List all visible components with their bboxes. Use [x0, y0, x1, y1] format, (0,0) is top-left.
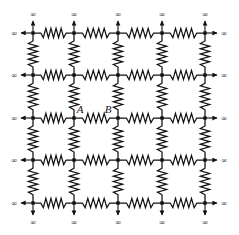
resistor-vertical	[200, 160, 209, 203]
resistor-horizontal	[33, 70, 74, 79]
resistor-vertical	[69, 118, 78, 160]
resistor-vertical	[200, 33, 209, 75]
lattice-node	[116, 73, 119, 76]
infinity-symbol: ∞	[30, 10, 36, 19]
resistor-horizontal	[33, 198, 74, 207]
resistor-horizontal	[118, 198, 162, 207]
infinity-symbol: ∞	[202, 218, 208, 227]
resistor-vertical	[28, 33, 37, 75]
infinity-symbol: ∞	[202, 10, 208, 19]
lattice-node	[203, 158, 206, 161]
resistor-horizontal	[74, 155, 118, 164]
infinity-symbol: ∞	[159, 218, 165, 227]
infinity-symbol: ∞	[221, 29, 227, 38]
infinity-symbol: ∞	[221, 71, 227, 80]
infinity-symbol: ∞	[11, 156, 17, 165]
resistor-vertical	[113, 118, 122, 160]
resistor-vertical	[69, 33, 78, 75]
node-label-a: A	[76, 103, 84, 115]
infinity-symbol: ∞	[221, 156, 227, 165]
node-label-b: B	[105, 103, 112, 115]
resistor-horizontal	[118, 155, 162, 164]
infinity-symbol: ∞	[11, 114, 17, 123]
resistor-horizontal	[74, 28, 118, 37]
infinity-symbol: ∞	[159, 10, 165, 19]
lattice-node	[160, 201, 163, 204]
resistor-lattice-figure: ∞∞∞∞∞∞∞∞∞∞∞∞∞∞∞∞∞∞∞∞ AB	[0, 0, 239, 235]
lattice-node	[31, 31, 34, 34]
lattice-node	[72, 31, 75, 34]
lattice-node	[72, 201, 75, 204]
resistor-horizontal	[162, 155, 205, 164]
resistor-vertical	[113, 160, 122, 203]
resistor-horizontal	[33, 113, 74, 122]
resistor-horizontal	[118, 113, 162, 122]
lattice-node	[203, 201, 206, 204]
resistor-horizontal	[162, 198, 205, 207]
resistor-horizontal	[74, 198, 118, 207]
lattice-node	[160, 31, 163, 34]
lattice-node	[116, 158, 119, 161]
resistor-vertical	[113, 75, 122, 118]
infinity-symbol: ∞	[30, 218, 36, 227]
lattice-node	[116, 31, 119, 34]
lattice-node	[160, 158, 163, 161]
resistor-horizontal	[33, 28, 74, 37]
lattice-node	[160, 116, 163, 119]
lattice-node	[203, 73, 206, 76]
lattice-diagram: ∞∞∞∞∞∞∞∞∞∞∞∞∞∞∞∞∞∞∞∞ AB	[0, 0, 239, 235]
infinity-symbol: ∞	[115, 218, 121, 227]
lattice-node	[72, 116, 75, 119]
resistor-horizontal	[33, 155, 74, 164]
lattice-node	[203, 116, 206, 119]
lattice-node	[203, 31, 206, 34]
lattice-node	[116, 116, 119, 119]
resistor-vertical	[157, 118, 166, 160]
lattice-node	[116, 201, 119, 204]
infinity-symbol: ∞	[221, 114, 227, 123]
resistor-vertical	[157, 75, 166, 118]
resistor-vertical	[200, 118, 209, 160]
resistor-vertical	[200, 75, 209, 118]
resistor-horizontal	[162, 28, 205, 37]
lattice-node	[31, 73, 34, 76]
resistor-horizontal	[118, 70, 162, 79]
infinity-symbol: ∞	[11, 199, 17, 208]
infinity-symbol: ∞	[71, 10, 77, 19]
infinity-symbol: ∞	[11, 71, 17, 80]
infinity-symbol: ∞	[221, 199, 227, 208]
resistor-horizontal	[118, 28, 162, 37]
resistor-vertical	[157, 33, 166, 75]
resistor-vertical	[157, 160, 166, 203]
infinity-symbol: ∞	[11, 29, 17, 38]
lattice-node	[72, 73, 75, 76]
lattice-node	[31, 201, 34, 204]
lattice-node	[31, 116, 34, 119]
resistor-horizontal	[162, 113, 205, 122]
infinity-symbol: ∞	[71, 218, 77, 227]
resistor-vertical	[69, 160, 78, 203]
lattice-node	[72, 158, 75, 161]
lattice-node	[31, 158, 34, 161]
infinity-symbol: ∞	[115, 10, 121, 19]
resistor-vertical	[28, 160, 37, 203]
resistor-vertical	[113, 33, 122, 75]
resistor-horizontal	[162, 70, 205, 79]
resistor-horizontal	[74, 70, 118, 79]
lattice-node	[160, 73, 163, 76]
resistor-vertical	[28, 75, 37, 118]
resistor-vertical	[28, 118, 37, 160]
